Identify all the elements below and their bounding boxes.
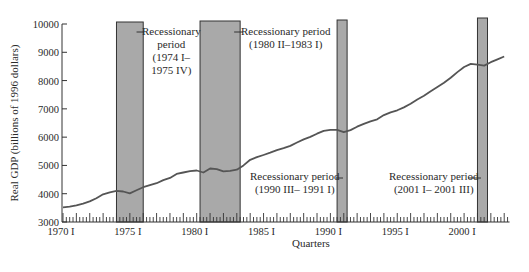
annotation-line: (2001 I– 2001 III): [389, 183, 479, 196]
x-tick-label: 1995 I: [382, 226, 410, 237]
annotation-line: Recessionary period: [389, 170, 479, 183]
y-axis-label: Real GDP (billions of 1996 dollars): [8, 44, 21, 201]
recession-band: [200, 21, 240, 222]
x-tick-label: 2000 I: [449, 226, 477, 237]
x-tick-label: 1985 I: [248, 226, 276, 237]
annotation-line: (1990 III– 1991 I): [250, 183, 340, 196]
recession-band: [477, 18, 487, 222]
x-axis-label: Quarters: [292, 237, 330, 249]
x-axis-ticks: 1970 I1975 I1980 I1985 I1990 I1995 I2000…: [47, 213, 507, 237]
y-tick-label: 9000: [38, 47, 59, 58]
y-tick-label: 7000: [38, 104, 59, 115]
annotation-line: Recessionary period: [241, 25, 331, 38]
y-tick-label: 10000: [33, 19, 59, 30]
y-tick-label: 4000: [38, 189, 59, 200]
annotation-recession-1990: Recessionary period (1990 III– 1991 I): [250, 170, 340, 196]
annotation-recession-1974: Recessionary period (1974 I– 1975 IV): [142, 25, 201, 77]
annotation-line: 1975 IV): [142, 64, 201, 77]
x-tick-label: 1980 I: [181, 226, 209, 237]
y-tick-label: 6000: [38, 132, 59, 143]
annotation-line: Recessionary period: [250, 170, 340, 183]
annotation-line: (1974 I–: [142, 51, 201, 64]
annotation-line: Recessionary: [142, 25, 201, 38]
y-tick-label: 5000: [38, 160, 59, 171]
x-tick-label: 1990 I: [315, 226, 343, 237]
y-tick-label: 8000: [38, 76, 59, 87]
x-tick-label: 1970 I: [47, 226, 75, 237]
x-tick-label: 1975 I: [114, 226, 142, 237]
annotation-recession-1980: Recessionary period (1980 II–1983 I): [241, 25, 331, 51]
annotation-line: (1980 II–1983 I): [241, 38, 331, 51]
annotation-line: period: [142, 38, 201, 51]
annotation-recession-2001: Recessionary period (2001 I– 2001 III): [389, 170, 479, 196]
